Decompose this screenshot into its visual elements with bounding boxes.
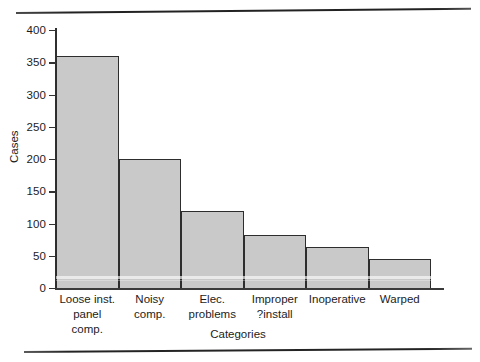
x-axis-line — [55, 288, 444, 290]
x-axis-category-label-line: Warped — [370, 292, 431, 307]
y-tick-mark — [49, 256, 56, 257]
bar — [181, 211, 244, 288]
y-tick-label: 100 — [27, 218, 47, 230]
bar — [306, 247, 369, 288]
y-tick-mark — [49, 159, 56, 160]
y-tick-label: 400 — [27, 24, 47, 36]
x-axis-category-label-line: comp. — [120, 307, 181, 322]
page-rule-bottom — [24, 348, 472, 353]
page-bottom-caption — [0, 357, 480, 362]
page-rule-top — [16, 8, 471, 14]
bar — [244, 235, 307, 288]
y-tick-mark — [49, 62, 56, 63]
x-axis-category-label-line: Improper — [245, 292, 306, 307]
y-tick-mark — [49, 191, 56, 192]
x-axis-category-label-line: Noisy — [120, 292, 181, 307]
y-tick-mark — [49, 30, 56, 31]
x-axis-category-label-line: Elec. — [182, 292, 243, 307]
y-tick-mark — [49, 127, 56, 128]
y-axis-title: Cases — [8, 130, 20, 163]
y-tick-label: 350 — [27, 56, 47, 68]
y-tick-label: 50 — [33, 250, 46, 262]
x-axis-category-label-line: problems — [182, 307, 243, 322]
y-tick-label: 300 — [27, 89, 47, 101]
bar — [369, 259, 432, 288]
y-tick-mark — [49, 95, 56, 96]
bar — [56, 56, 119, 288]
bar-series — [56, 30, 431, 288]
x-axis-title: Categories — [0, 328, 480, 340]
y-tick-mark — [49, 288, 56, 289]
x-axis-category-label-line: Loose inst. — [57, 292, 118, 307]
bar — [119, 159, 182, 288]
y-tick-label: 0 — [40, 282, 47, 294]
y-tick-mark — [49, 224, 56, 225]
plot-area: 050100150200250300350400 — [56, 30, 431, 288]
y-tick-label: 150 — [27, 185, 47, 197]
x-axis-category-label-line: Inoperative — [307, 292, 368, 307]
y-tick-label: 250 — [27, 121, 47, 133]
x-axis-category-label-line: ?install — [245, 307, 306, 322]
y-tick-label: 200 — [27, 153, 47, 165]
x-axis-title-text: Categories — [210, 328, 266, 340]
